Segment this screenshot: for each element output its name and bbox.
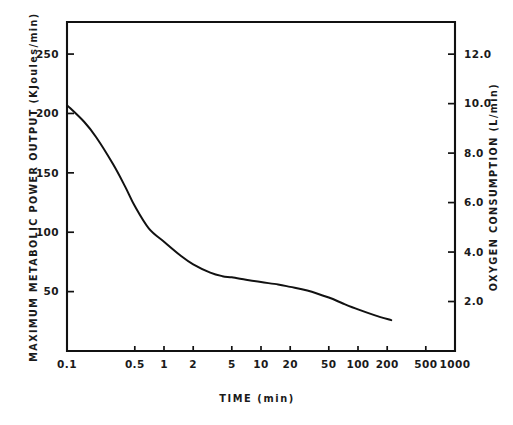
y2-tick-label: 4.0 bbox=[464, 246, 484, 258]
x-tick-label: 10 bbox=[253, 358, 268, 370]
y2-tick-label: 12.0 bbox=[464, 48, 492, 60]
y2-tick-label: 8.0 bbox=[464, 147, 484, 159]
x-tick-label: 1 bbox=[160, 358, 168, 370]
x-axis-tick-labels: 0.10.51251020501002005001000 bbox=[57, 358, 470, 370]
data-series-line bbox=[67, 105, 391, 320]
x-tick-label: 0.1 bbox=[57, 358, 77, 370]
x-tick-label: 2 bbox=[189, 358, 197, 370]
x-tick-label: 100 bbox=[346, 358, 369, 370]
y-tick-label: 150 bbox=[36, 167, 59, 179]
x-tick-label: 50 bbox=[321, 358, 336, 370]
x-tick-label: 0.5 bbox=[125, 358, 145, 370]
x-tick-label: 500 bbox=[414, 358, 437, 370]
y-tick-label: 200 bbox=[36, 107, 59, 119]
y2-tick-label: 6.0 bbox=[464, 196, 484, 208]
y2-axis-title: OXYGEN CONSUMPTION (L/min) bbox=[488, 83, 499, 291]
y-axis-title: MAXIMUM METABOLIC POWER OUTPUT (KJoules/… bbox=[28, 12, 39, 361]
chart-plot: 50100150200250 2.04.06.08.010.012.0 0.10… bbox=[0, 0, 513, 425]
y-tick-label: 100 bbox=[36, 226, 59, 238]
x-tick-label: 20 bbox=[282, 358, 297, 370]
x-tick-label: 200 bbox=[376, 358, 399, 370]
y-tick-label: 50 bbox=[44, 285, 59, 297]
figure-canvas: 50100150200250 2.04.06.08.010.012.0 0.10… bbox=[0, 0, 513, 425]
y-tick-label: 250 bbox=[36, 48, 59, 60]
x-tick-label: 5 bbox=[228, 358, 236, 370]
y2-tick-label: 2.0 bbox=[464, 295, 484, 307]
y-axis-tick-labels: 50100150200250 bbox=[36, 48, 59, 298]
x-axis-title: TIME (min) bbox=[219, 393, 295, 404]
x-tick-label: 1000 bbox=[440, 358, 471, 370]
